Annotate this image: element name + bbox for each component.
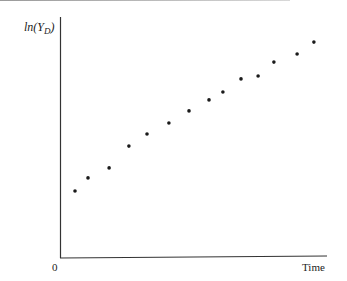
data-point [167, 121, 171, 125]
x-axis [60, 256, 327, 258]
data-point [256, 74, 260, 78]
x-axis-label: Time [302, 261, 325, 273]
data-point [145, 132, 149, 136]
data-point [207, 98, 211, 102]
data-point [272, 60, 276, 64]
data-point [187, 109, 191, 113]
data-point [221, 90, 225, 94]
data-points [73, 40, 316, 193]
data-point [86, 176, 90, 180]
data-point [239, 77, 243, 81]
data-point [73, 189, 77, 193]
y-axis-label: ln(YD) [24, 20, 55, 36]
data-point [107, 166, 111, 170]
data-point [312, 40, 316, 44]
scatter-chart: ln(YD) 0 Time [0, 0, 347, 281]
x-axis-origin-label: 0 [52, 261, 58, 273]
data-point [127, 144, 131, 148]
data-point [295, 52, 299, 56]
